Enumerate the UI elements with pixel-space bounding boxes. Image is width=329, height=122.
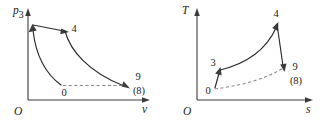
ts-diagram-panel: T s O 3 4 0 9 (8)	[165, 0, 329, 122]
ts-x-axis-label: s	[306, 103, 311, 115]
pv-state-label-4: 4	[71, 23, 77, 34]
ts-process-0-9-dashed	[215, 68, 283, 89]
pv-x-axis-label: v	[142, 103, 148, 115]
pv-diagram-panel: p v O 3 4 0 9 (8)	[0, 0, 165, 122]
ts-diagram-svg: T s O 3 4 0 9 (8)	[165, 0, 329, 122]
ts-process-3-4	[220, 28, 276, 70]
ts-state-label-9: 9	[292, 61, 297, 72]
pv-state-label-3: 3	[18, 9, 23, 20]
ts-origin-label: O	[183, 105, 192, 117]
ts-state-label-4: 4	[273, 8, 279, 19]
pv-y-axis-arrow-icon	[25, 8, 31, 16]
ts-y-axis-arrow-icon	[194, 8, 200, 16]
ts-y-axis-label: T	[182, 4, 190, 16]
ts-state-label-3: 3	[210, 57, 215, 68]
pv-state-label-0: 0	[61, 87, 66, 98]
ts-arrow-at-9-icon	[280, 64, 286, 72]
pv-origin-label: O	[14, 105, 23, 117]
thermodynamic-diagram-figure: p v O 3 4 0 9 (8)	[0, 0, 329, 122]
ts-x-axis-arrow-icon	[305, 97, 313, 103]
ts-arrow-at-3-icon	[215, 67, 221, 75]
ts-state-label-0: 0	[205, 85, 210, 96]
pv-x-axis-arrow-icon	[142, 97, 150, 103]
pv-arrow-at-9-icon	[122, 81, 131, 88]
pv-state-label-9: 9	[135, 71, 140, 82]
ts-process-4-9	[277, 24, 283, 66]
ts-state-label-9-alt: (8)	[290, 75, 303, 87]
ts-process-0-3	[215, 73, 219, 88]
pv-diagram-svg: p v O 3 4 0 9 (8)	[0, 0, 165, 122]
pv-process-3-4	[33, 25, 64, 31]
pv-state-label-9-alt: (8)	[133, 85, 146, 97]
pv-process-0-3	[33, 30, 61, 85]
pv-process-4-9	[65, 31, 124, 86]
